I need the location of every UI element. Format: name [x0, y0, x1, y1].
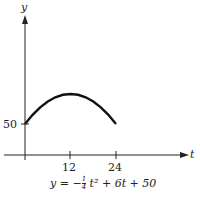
x-tick-label-24: 24: [108, 162, 122, 173]
y-axis-arrow-icon: [22, 15, 28, 24]
equation-lhs: y = −: [50, 177, 82, 190]
x-axis-label: t: [190, 149, 194, 160]
y-tick-label-50: 50: [3, 119, 17, 130]
equation-caption: y = −14 t² + 6t + 50: [50, 176, 156, 191]
chart-canvas: [0, 0, 200, 198]
equation-rest: t² + 6t + 50: [86, 177, 156, 190]
x-axis-arrow-icon: [180, 152, 189, 158]
parabola-curve: [25, 94, 116, 124]
x-tick-label-12: 12: [62, 162, 76, 173]
y-axis-label: y: [21, 2, 27, 13]
